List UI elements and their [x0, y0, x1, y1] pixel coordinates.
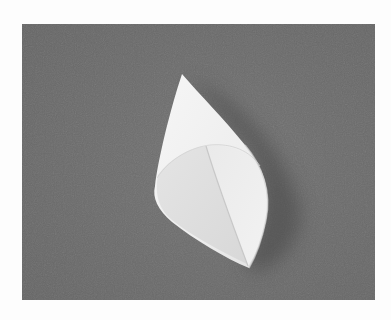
photograph: [22, 24, 375, 300]
page-canvas: [0, 0, 391, 320]
paper-cone-photo: [22, 24, 375, 300]
